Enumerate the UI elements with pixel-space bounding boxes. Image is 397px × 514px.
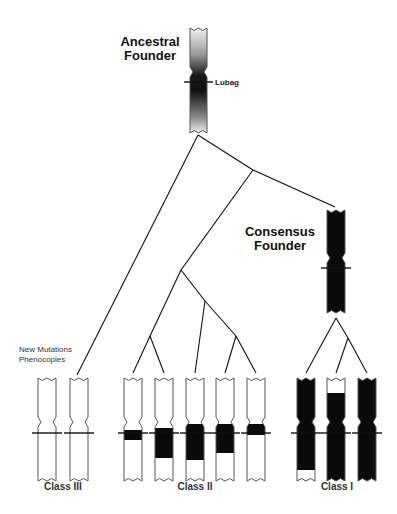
- chromosome-body: [38, 378, 56, 481]
- consensus-founder-label-1: Consensus: [245, 224, 315, 239]
- chromosome-body: [327, 210, 345, 313]
- class-2-chromosome-3: [180, 378, 210, 481]
- class-3-label: Class III: [44, 481, 82, 492]
- branch-d-to-f: [181, 270, 205, 301]
- chromosome-body: [70, 378, 88, 481]
- class-1-chromosome-1: [291, 378, 321, 485]
- branch-b-to-d: [181, 170, 253, 270]
- consensus-founder-label-2: Founder: [254, 238, 306, 253]
- branch-f-to-c2-3: [195, 301, 205, 373]
- chromosome-body: [190, 28, 207, 133]
- class-2-chromosome-4: [210, 378, 240, 481]
- consensus-founder-chromosome: [321, 210, 351, 313]
- chromosome-body: [124, 378, 142, 481]
- branch-g-to-c2-5: [236, 336, 256, 373]
- chromosome-segment: [326, 374, 346, 393]
- chromosome-body: [297, 378, 315, 481]
- branch-f-to-g: [205, 301, 236, 336]
- ancestral-founder-chromosome: [184, 28, 213, 133]
- chromosome-segment: [215, 424, 235, 453]
- branch-root-to-b: [198, 135, 253, 170]
- class-3-chromosome-1: [32, 378, 62, 481]
- chromosome-segment: [123, 430, 143, 440]
- annotation-phenocopies: Phenocopies: [19, 355, 65, 364]
- class-1-chromosome-2: [321, 374, 351, 481]
- branch-g-to-c2-4: [225, 336, 236, 373]
- branch-e-to-c2-1: [133, 336, 150, 373]
- class-2-chromosome-1: [118, 378, 148, 481]
- chromosomes: [32, 28, 382, 485]
- founder-haplotype-diagram: Ancestral Founder Lubag Consensus Founde…: [0, 0, 397, 514]
- branch-e-to-c2-2: [150, 336, 164, 373]
- branch-root-to-class3: [77, 135, 198, 375]
- branch-h-to-c1-3: [348, 338, 367, 373]
- branch-cons-to-h: [336, 318, 348, 338]
- lubag-marker-label: Lubag: [215, 78, 239, 87]
- class-2-chromosome-5: [241, 378, 271, 481]
- branch-h-to-c1-2: [336, 338, 348, 373]
- lineage-tree: [77, 135, 367, 375]
- chromosome-body: [358, 378, 376, 481]
- branch-b-to-consensus: [253, 170, 335, 207]
- chromosome-segment: [296, 470, 316, 485]
- chromosome-segment: [185, 424, 205, 460]
- annotation-new-mutations: New Mutations: [19, 345, 72, 354]
- ancestral-founder-label-1: Ancestral: [120, 34, 179, 49]
- class-2-chromosome-2: [149, 378, 179, 481]
- class-3-chromosome-2: [64, 378, 94, 481]
- class-2-label: Class II: [177, 481, 212, 492]
- class-1-chromosome-3: [352, 378, 382, 481]
- ancestral-founder-label-2: Founder: [124, 48, 176, 63]
- chromosome-body: [327, 378, 345, 481]
- branch-cons-to-c1-1: [306, 318, 336, 373]
- class-1-label: Class I: [321, 481, 353, 492]
- branch-d-to-e: [150, 270, 181, 336]
